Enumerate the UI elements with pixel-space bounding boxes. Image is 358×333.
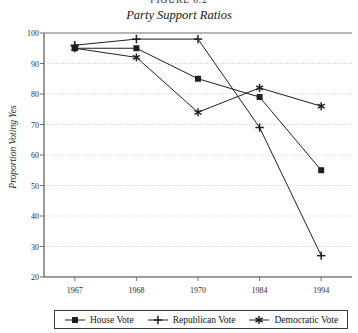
x-tick-1994: 1994 (313, 286, 329, 295)
y-tick-40: 40 (31, 212, 39, 221)
chart-legend: House VoteRepublican VoteDemocratic Vote (54, 310, 348, 329)
y-tick-80: 80 (31, 90, 39, 99)
x-tick-1984: 1984 (252, 286, 268, 295)
y-tick-90: 90 (31, 59, 39, 68)
legend-label: House Vote (90, 315, 134, 325)
y-tick-70: 70 (31, 120, 39, 129)
y-tick-100: 100 (27, 29, 39, 38)
plot-area: 2030405060708090100 19671968197019841994 (44, 33, 352, 277)
series-republican-vote (71, 35, 326, 260)
legend-label: Republican Vote (173, 315, 236, 325)
x-tick-1967: 1967 (67, 286, 83, 295)
legend-item-democratic-vote: Democratic Vote (248, 314, 338, 326)
legend-item-republican-vote: Republican Vote (147, 314, 236, 326)
y-tick-30: 30 (31, 242, 39, 251)
legend-label: Democratic Vote (274, 315, 338, 325)
figure-container: Figure 6.2 Party Support Ratios Proporti… (0, 0, 358, 333)
square-marker-icon (64, 314, 86, 326)
plus-marker-icon (147, 314, 169, 326)
y-tick-60: 60 (31, 151, 39, 160)
y-axis-title: Proportion Voting Yes (8, 77, 18, 217)
y-tick-20: 20 (31, 273, 39, 282)
figure-title: Party Support Ratios (0, 8, 358, 23)
x-tick-1968: 1968 (128, 286, 144, 295)
asterisk-marker-icon (248, 314, 270, 326)
chart-canvas (44, 33, 352, 277)
y-tick-50: 50 (31, 181, 39, 190)
legend-item-house-vote: House Vote (64, 314, 134, 326)
x-tick-1970: 1970 (190, 286, 206, 295)
figure-number: Figure 6.2 (0, 0, 358, 5)
